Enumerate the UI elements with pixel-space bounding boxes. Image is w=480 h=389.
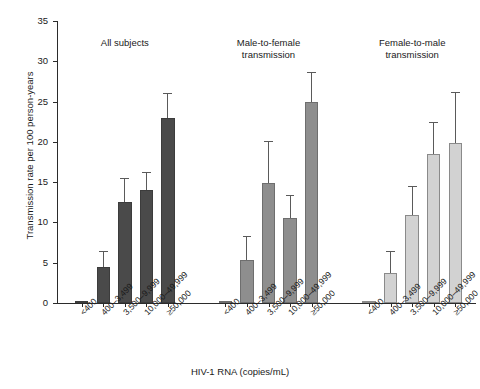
error-bar-cap bbox=[307, 72, 316, 73]
error-bar bbox=[390, 251, 391, 273]
error-bar-cap bbox=[408, 186, 417, 187]
y-tick-label: 35 bbox=[0, 16, 48, 26]
error-bar bbox=[103, 251, 104, 267]
error-bar bbox=[311, 72, 312, 103]
error-bar bbox=[433, 122, 434, 154]
error-bar bbox=[455, 92, 456, 144]
plot-area bbox=[57, 21, 476, 303]
error-bar-cap bbox=[451, 92, 460, 93]
error-bar bbox=[268, 141, 269, 183]
bar bbox=[240, 260, 253, 303]
error-bar-cap bbox=[120, 178, 129, 179]
error-bar bbox=[146, 172, 147, 191]
error-bar bbox=[412, 186, 413, 215]
error-bar-cap bbox=[163, 93, 172, 94]
bar bbox=[305, 102, 318, 303]
error-bar bbox=[246, 236, 247, 260]
error-bar bbox=[167, 93, 168, 118]
bar bbox=[97, 267, 110, 303]
bar-chart-figure: 05101520253035 Transmission rate per 100… bbox=[0, 0, 480, 389]
y-axis-title: Transmission rate per 100 person-years bbox=[24, 41, 35, 271]
panel-title: All subjects bbox=[55, 37, 195, 49]
error-bar-cap bbox=[264, 141, 273, 142]
error-bar-cap bbox=[429, 122, 438, 123]
bar bbox=[161, 118, 174, 303]
error-bar-cap bbox=[286, 195, 295, 196]
error-bar-cap bbox=[142, 172, 151, 173]
y-tick-label: 0 bbox=[0, 298, 48, 308]
bar bbox=[384, 273, 397, 303]
error-bar-cap bbox=[386, 251, 395, 252]
error-bar bbox=[124, 178, 125, 202]
x-axis-title: HIV-1 RNA (copies/mL) bbox=[0, 366, 480, 377]
error-bar-cap bbox=[99, 251, 108, 252]
panel-title: Female-to-male transmission bbox=[342, 37, 480, 61]
error-bar bbox=[290, 195, 291, 218]
panel-title: Male-to-female transmission bbox=[199, 37, 339, 61]
error-bar-cap bbox=[243, 236, 252, 237]
